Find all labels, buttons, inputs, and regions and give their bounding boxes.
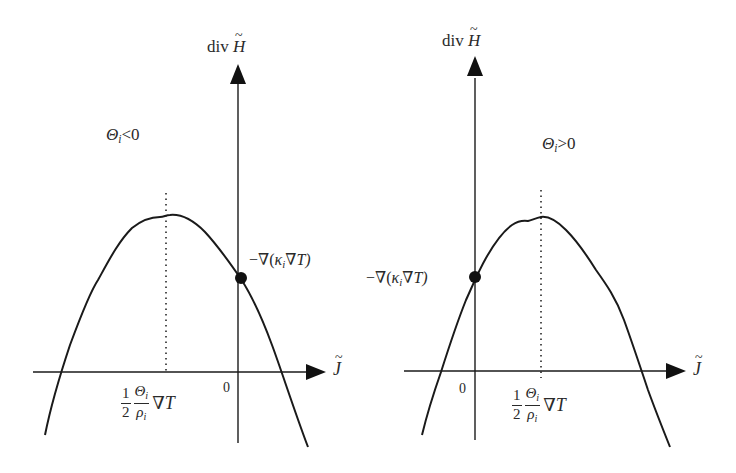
nabla-suffix: ∇T) <box>402 269 427 286</box>
right-y-axis-label: div H <box>442 32 480 49</box>
right-vertex-label: 12 Θiρi ∇T <box>512 386 566 425</box>
frac-denominator: 2 <box>121 405 131 421</box>
diagram-canvas <box>0 0 736 473</box>
theta-symbol: Θ <box>135 383 146 399</box>
left-x-axis-label: J <box>333 360 341 378</box>
frac-numerator: Θi <box>134 384 150 402</box>
div-text: div <box>442 31 464 50</box>
nabla-prefix: −∇( <box>366 269 392 286</box>
nabla-t: ∇T <box>152 394 175 412</box>
theta-subscript: i <box>536 392 539 403</box>
comparison-op: < <box>122 125 132 144</box>
left-parabola-curve <box>45 215 308 447</box>
frac-numerator: 1 <box>512 388 522 404</box>
h-tilde-var: H <box>233 38 245 55</box>
comparison-op: > <box>558 134 568 153</box>
one-half-fraction: 12 <box>512 388 522 423</box>
nabla-t: ∇T <box>543 396 566 414</box>
right-intercept-dot <box>469 271 481 283</box>
rho-symbol: ρ <box>527 406 534 422</box>
frac-numerator: Θi <box>525 386 541 404</box>
frac-denominator: 2 <box>512 407 522 423</box>
frac-denominator: ρi <box>135 405 147 423</box>
left-x-axis-arrow-icon <box>306 364 326 380</box>
h-tilde-var: H <box>468 32 480 49</box>
j-tilde-var: J <box>333 360 341 378</box>
right-point-label: −∇(κi∇T) <box>366 270 428 288</box>
left-point-label: −∇(κi∇T) <box>249 252 311 270</box>
theta-symbol: Θ <box>526 385 537 401</box>
right-x-axis-arrow-icon <box>666 363 686 379</box>
frac-denominator: ρi <box>526 407 538 425</box>
theta-over-rho-fraction: Θiρi <box>134 384 150 423</box>
theta-symbol: Θ <box>106 125 118 144</box>
left-y-axis-label: div H <box>207 38 245 55</box>
left-vertex-label: 12 Θiρi ∇T <box>121 384 175 423</box>
comparison-value: 0 <box>567 134 576 153</box>
j-tilde-var: J <box>693 360 701 378</box>
left-intercept-dot <box>235 272 247 284</box>
right-y-axis-arrow-icon <box>467 56 483 76</box>
left-y-axis-arrow-icon <box>230 64 246 84</box>
right-origin-label: 0 <box>459 382 466 396</box>
nabla-prefix: −∇( <box>249 251 275 268</box>
origin-zero: 0 <box>223 380 230 395</box>
theta-symbol: Θ <box>542 134 554 153</box>
right-condition-label: Θi>0 <box>542 135 576 155</box>
left-origin-label: 0 <box>223 381 230 395</box>
origin-zero: 0 <box>459 381 466 396</box>
rho-subscript: i <box>535 413 538 424</box>
comparison-value: 0 <box>131 125 140 144</box>
frac-numerator: 1 <box>121 386 131 402</box>
rho-symbol: ρ <box>136 404 143 420</box>
theta-over-rho-fraction: Θiρi <box>525 386 541 425</box>
nabla-suffix: ∇T) <box>285 251 310 268</box>
theta-subscript: i <box>145 390 148 401</box>
left-condition-label: Θi<0 <box>106 126 140 146</box>
right-x-axis-label: J <box>693 360 701 378</box>
div-text: div <box>207 37 229 56</box>
one-half-fraction: 12 <box>121 386 131 421</box>
rho-subscript: i <box>144 411 147 422</box>
